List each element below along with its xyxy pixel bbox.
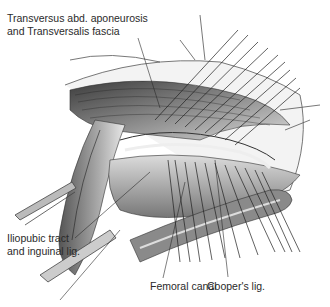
label-line: Cooper's lig. bbox=[207, 280, 265, 293]
label-transversus-aponeurosis: Transversus abd. aponeurosis and Transve… bbox=[7, 12, 148, 38]
label-iliopubic-tract: Iliopubic tract and inguinal lig. bbox=[7, 232, 80, 258]
anatomical-illustration bbox=[0, 0, 330, 307]
label-line: Transversus abd. aponeurosis bbox=[7, 12, 148, 25]
label-coopers-ligament: Cooper's lig. bbox=[207, 280, 265, 293]
label-line: Iliopubic tract bbox=[7, 232, 80, 245]
label-line: and inguinal lig. bbox=[7, 245, 80, 258]
label-line: and Transversalis fascia bbox=[7, 25, 148, 38]
